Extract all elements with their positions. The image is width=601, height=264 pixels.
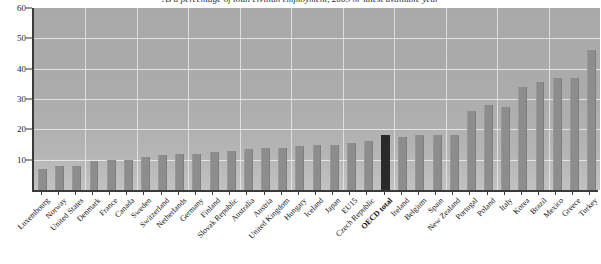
bar-finland xyxy=(210,152,219,190)
x-tick-mark xyxy=(161,190,162,195)
bar-spain xyxy=(433,135,442,190)
x-tick-mark xyxy=(229,190,230,195)
bar-iceland xyxy=(313,145,322,191)
x-tick-mark xyxy=(555,190,556,195)
bar-brazil xyxy=(536,82,545,190)
bar-netherlands xyxy=(175,154,184,190)
bar-mexico xyxy=(553,78,562,190)
bar-poland xyxy=(484,105,493,190)
bar-italy xyxy=(501,107,510,190)
x-tick-mark xyxy=(469,190,470,195)
x-tick-mark xyxy=(504,190,505,195)
bar-ireland xyxy=(398,137,407,190)
bar-united-kingdom xyxy=(278,148,287,190)
bar-portugal xyxy=(467,111,476,190)
x-tick-mark xyxy=(41,190,42,195)
bar-greece xyxy=(570,78,579,190)
bar-sweden xyxy=(141,157,150,190)
x-tick-mark xyxy=(435,190,436,195)
bar-hungary xyxy=(295,146,304,190)
bar-eu15 xyxy=(347,143,356,190)
bar-canada xyxy=(124,160,133,190)
bar-oecd-total xyxy=(381,135,390,190)
y-tick-label: 60 xyxy=(17,3,26,13)
plot-area xyxy=(32,8,600,190)
x-axis-label: Korea xyxy=(511,196,531,216)
x-tick-mark xyxy=(538,190,539,195)
chart-title: As a percentage of total civilian employ… xyxy=(0,0,601,4)
x-tick-mark xyxy=(195,190,196,195)
x-axis-label: Japan xyxy=(323,196,342,215)
x-tick-mark xyxy=(366,190,367,195)
bar-czech-republic xyxy=(364,141,373,190)
bar-australia xyxy=(244,149,253,190)
x-tick-mark xyxy=(401,190,402,195)
bar-germany xyxy=(192,154,201,190)
y-axis: 102030405060 xyxy=(0,0,32,198)
x-tick-mark xyxy=(75,190,76,195)
y-tick-label: 30 xyxy=(17,94,26,104)
x-tick-mark xyxy=(298,190,299,195)
bar-new-zealand xyxy=(450,135,459,190)
x-axis-labels: LuxembourgNorwayUnited StatesDenmarkFran… xyxy=(32,196,598,264)
x-tick-mark xyxy=(384,190,385,195)
x-tick-mark xyxy=(349,190,350,195)
bar-turkey xyxy=(587,50,596,190)
y-tick-label: 50 xyxy=(17,33,26,43)
y-tick-label: 40 xyxy=(17,64,26,74)
x-tick-mark xyxy=(332,190,333,195)
x-tick-mark xyxy=(143,190,144,195)
x-tick-mark xyxy=(487,190,488,195)
x-tick-mark xyxy=(246,190,247,195)
bar-france xyxy=(107,160,116,190)
bar-austria xyxy=(261,148,270,190)
bar-slovak-republic xyxy=(227,151,236,190)
bar-united-states xyxy=(72,166,81,190)
bar-japan xyxy=(330,145,339,191)
x-tick-mark xyxy=(589,190,590,195)
bar-series xyxy=(34,8,600,190)
y-tick-label: 20 xyxy=(17,124,26,134)
x-tick-mark xyxy=(126,190,127,195)
x-tick-mark xyxy=(178,190,179,195)
x-tick-mark xyxy=(92,190,93,195)
x-tick-mark xyxy=(212,190,213,195)
x-tick-mark xyxy=(58,190,59,195)
x-tick-mark xyxy=(109,190,110,195)
x-tick-mark xyxy=(521,190,522,195)
bar-luxembourg xyxy=(38,169,47,190)
x-tick-mark xyxy=(418,190,419,195)
x-tick-mark xyxy=(452,190,453,195)
x-tick-mark xyxy=(281,190,282,195)
x-axis-ticks xyxy=(32,190,598,195)
chart-container: As a percentage of total civilian employ… xyxy=(0,0,601,264)
bar-switzerland xyxy=(158,155,167,190)
bar-korea xyxy=(518,87,527,190)
bar-belgium xyxy=(415,135,424,190)
y-tick-label: 10 xyxy=(17,155,26,165)
bar-denmark xyxy=(90,161,99,190)
x-tick-mark xyxy=(572,190,573,195)
bar-norway xyxy=(55,166,64,190)
x-tick-mark xyxy=(315,190,316,195)
x-axis-label: Poland xyxy=(475,196,497,218)
x-tick-mark xyxy=(264,190,265,195)
